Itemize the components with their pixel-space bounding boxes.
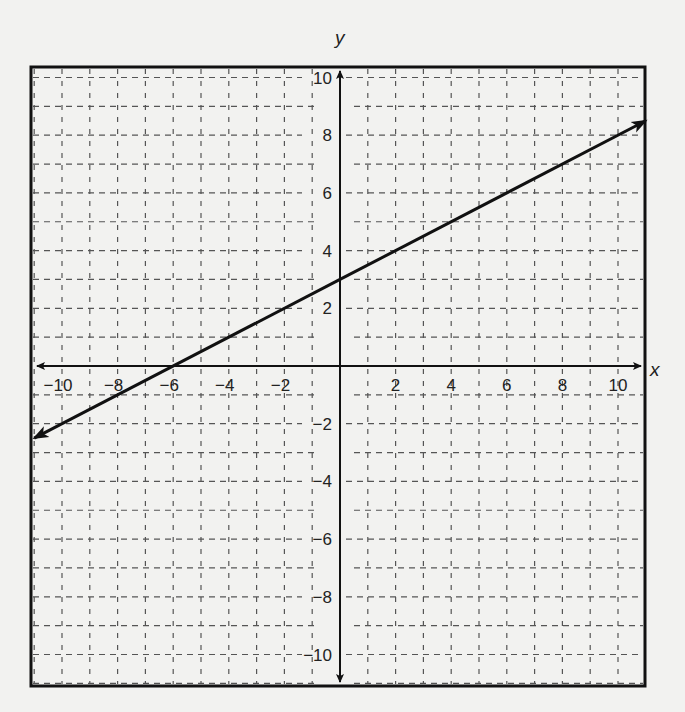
y-tick-label: 8 bbox=[323, 126, 332, 145]
coordinate-plane: −10−8−6−4−2246810108642−2−4−6−8−10 x y bbox=[0, 0, 685, 712]
x-tick-label: −6 bbox=[160, 376, 179, 395]
y-tick-label: −6 bbox=[313, 530, 332, 549]
x-tick-label: −4 bbox=[215, 376, 234, 395]
y-tick-label: −10 bbox=[303, 646, 332, 665]
coordinate-plane-figure: −10−8−6−4−2246810108642−2−4−6−8−10 x y bbox=[0, 0, 685, 712]
y-tick-label: −4 bbox=[313, 472, 332, 491]
x-tick-label: 6 bbox=[502, 376, 511, 395]
data-line-segment bbox=[34, 279, 340, 438]
x-tick-label: 10 bbox=[609, 376, 628, 395]
y-tick-label: −2 bbox=[313, 415, 332, 434]
y-axis-label: y bbox=[333, 27, 346, 48]
y-tick-label: −8 bbox=[313, 588, 332, 607]
y-tick-label: 6 bbox=[323, 184, 332, 203]
dashed-grid bbox=[33, 69, 643, 684]
axes bbox=[37, 71, 641, 682]
x-tick-label: −2 bbox=[271, 376, 290, 395]
x-tick-label: −10 bbox=[44, 376, 73, 395]
x-tick-label: 2 bbox=[391, 376, 400, 395]
y-tick-label: 2 bbox=[323, 299, 332, 318]
x-tick-label: 4 bbox=[446, 376, 455, 395]
data-line-segment bbox=[340, 121, 646, 280]
y-tick-label: 4 bbox=[323, 242, 332, 261]
x-tick-label: 8 bbox=[558, 376, 567, 395]
x-axis-label: x bbox=[649, 359, 661, 380]
y-tick-label: 10 bbox=[313, 69, 332, 88]
